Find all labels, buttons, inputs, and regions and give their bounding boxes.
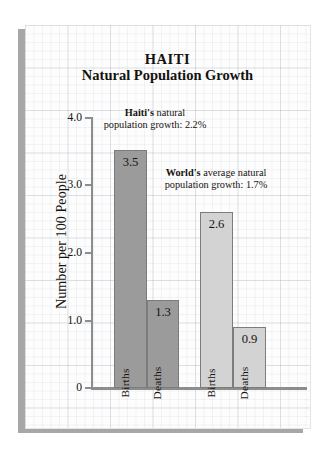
y-tick-label-1: 1.0: [42, 315, 82, 326]
bar-haiti-deaths: 1.3 Deaths: [147, 300, 179, 388]
bar-value-world-births: 2.6: [201, 217, 232, 232]
plot-area: Number per 100 People 4.0 3.0 2.0 1.0 0 …: [25, 25, 310, 428]
y-tick-4: [85, 117, 91, 119]
bar-category-haiti-deaths: Deaths: [151, 367, 163, 400]
y-tick-3: [85, 184, 91, 186]
y-tick-label-4: 4.0: [42, 112, 82, 123]
bar-category-haiti-births: Births: [119, 368, 131, 397]
y-tick-label-3: 3.0: [42, 179, 82, 190]
chart-screenshot: HAITI Natural Population Growth Haiti's …: [0, 0, 323, 453]
y-tick-2: [85, 252, 91, 254]
y-axis-label: Number per 100 People: [53, 142, 70, 342]
bar-world-births: 2.6 Births: [200, 212, 233, 388]
bar-value-world-deaths: 0.9: [234, 332, 265, 347]
bar-world-deaths: 0.9 Deaths: [233, 327, 266, 388]
bar-category-world-deaths: Deaths: [238, 367, 250, 400]
y-tick-label-0: 0: [42, 382, 82, 393]
bar-category-world-births: Births: [205, 368, 217, 397]
y-tick-0: [85, 387, 91, 389]
y-axis-line: [91, 117, 93, 388]
bar-value-haiti-deaths: 1.3: [148, 305, 178, 320]
y-tick-1: [85, 320, 91, 322]
bar-haiti-births: 3.5 Births: [114, 150, 147, 388]
graph-paper-card: HAITI Natural Population Growth Haiti's …: [25, 25, 311, 429]
y-tick-label-2: 2.0: [42, 247, 82, 258]
bar-value-haiti-births: 3.5: [115, 155, 146, 170]
